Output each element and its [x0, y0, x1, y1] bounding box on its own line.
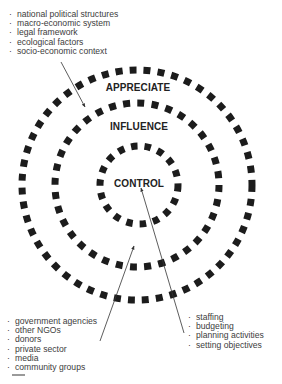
list-item-text: socio-economic context: [17, 46, 107, 56]
bullet-icon: ·: [188, 341, 191, 350]
ring-label-appreciate: APPRECIATE: [106, 82, 171, 93]
list-item-text: setting objectives: [196, 340, 262, 350]
control-activities-list: ·staffing ·budgeting ·planning activitie…: [187, 313, 264, 350]
list-item-text: community groups: [15, 362, 85, 372]
appreciate-factors-list: ·national political structures ·macro-ec…: [8, 10, 118, 56]
ring-label-control: CONTROL: [114, 178, 164, 189]
list-item: ·community groups: [6, 363, 97, 372]
list-item: ·setting objectives: [187, 341, 264, 350]
footer-rule: [12, 374, 25, 376]
ring-label-influence: INFLUENCE: [110, 121, 168, 132]
arrow-control: [141, 188, 184, 333]
bullet-icon: ·: [9, 47, 12, 56]
influence-actors-list: ·government agencies ·other NGOs ·donors…: [6, 317, 97, 372]
list-item: ·socio-economic context: [8, 47, 118, 56]
bullet-icon: ·: [7, 363, 10, 372]
